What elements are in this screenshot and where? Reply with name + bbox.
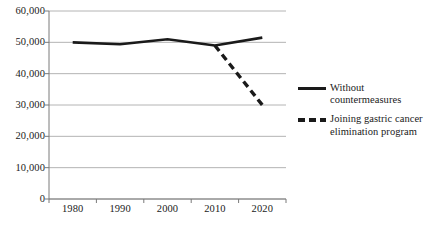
legend-entry-elimination-program: Joining gastric cancer elimination progr… [298,113,447,137]
y-axis-tick-label: 60,000 [1,6,45,17]
chart-legend: Without countermeasures Joining gastric … [298,82,447,145]
legend-entry-without-countermeasures: Without countermeasures [298,82,447,106]
y-axis-tick-label: 20,000 [1,131,45,142]
y-axis-tick-labels: 010,00020,00030,00040,00050,00060,000 [0,0,45,226]
data-series-group [73,38,263,105]
y-axis-tick-label: 50,000 [1,37,45,48]
series-line [215,45,262,105]
line-chart: 010,00020,00030,00040,00050,00060,000 19… [0,0,447,226]
y-axis-tick-label: 40,000 [1,69,45,80]
y-axis-ticks [45,11,49,199]
legend-label: Without countermeasures [330,82,447,106]
legend-label: Joining gastric cancer elimination progr… [330,113,447,137]
legend-solid-line-icon [298,87,326,90]
x-axis-tick-label: 2020 [232,203,292,214]
y-axis-tick-label: 30,000 [1,100,45,111]
series-line [73,38,263,46]
legend-dashed-line-icon [298,118,326,122]
y-axis-tick-label: 10,000 [1,163,45,174]
x-axis-tick-labels: 19801990200020102020 [0,203,447,223]
